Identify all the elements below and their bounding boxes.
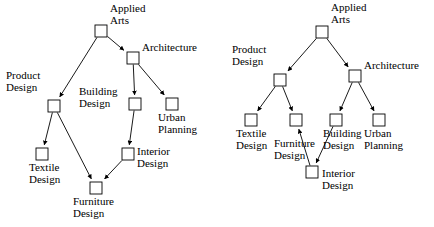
node-box-building_design[interactable] <box>129 98 141 110</box>
node-label-line2-furniture_design: Design <box>73 208 114 220</box>
node-label-line1-furniture_design: Furniture <box>274 138 315 150</box>
node-label-textile_design: TextileDesign <box>236 128 267 151</box>
node-box-urban_planning[interactable] <box>373 114 385 126</box>
edge-interior_design-to-furniture_design <box>105 161 122 179</box>
node-label-product_design: ProductDesign <box>6 70 40 93</box>
diagram-canvas <box>0 0 434 227</box>
node-box-building_design[interactable] <box>330 114 342 126</box>
node-box-applied_arts[interactable] <box>95 25 107 37</box>
node-label-urban_planning: UrbanPlanning <box>364 128 403 151</box>
node-label-line1-interior_design: Interior <box>137 146 170 158</box>
node-label-line1-product_design: Product <box>6 70 40 82</box>
edge-applied_arts-to-product_design <box>288 39 316 71</box>
edge-applied_arts-to-architecture <box>327 39 348 67</box>
node-box-product_design[interactable] <box>48 100 60 112</box>
node-label-line2-urban_planning: Planning <box>364 140 403 152</box>
node-label-line1-building_design: Building <box>79 86 118 98</box>
node-label-line2-building_design: Design <box>79 98 118 110</box>
edge-architecture-to-urban_planning <box>359 83 374 111</box>
node-label-urban_planning: UrbanPlanning <box>158 112 197 135</box>
node-label-architecture: Architecture <box>364 60 419 72</box>
edge-product_design-to-furniture_design <box>57 113 91 179</box>
node-label-line2-applied_arts: Arts <box>110 15 145 27</box>
edge-product_design-to-furniture_design <box>283 87 293 111</box>
node-label-architecture: Architecture <box>142 42 197 54</box>
node-label-interior_design: InteriorDesign <box>322 168 355 191</box>
node-label-line2-textile_design: Design <box>236 140 267 152</box>
edge-building_design-to-interior_design <box>129 111 134 145</box>
node-label-line1-architecture: Architecture <box>142 42 197 54</box>
node-label-line1-architecture: Architecture <box>364 60 419 72</box>
node-label-product_design: ProductDesign <box>232 44 266 67</box>
node-label-line2-textile_design: Design <box>29 174 60 186</box>
node-label-line1-applied_arts: Applied <box>110 3 145 15</box>
node-box-textile_design[interactable] <box>36 148 48 160</box>
node-box-product_design[interactable] <box>274 74 286 86</box>
node-label-line2-applied_arts: Arts <box>331 14 366 26</box>
node-box-architecture[interactable] <box>349 70 361 82</box>
node-label-furniture_design: FurnitureDesign <box>274 138 315 161</box>
node-label-line1-urban_planning: Urban <box>158 112 197 124</box>
node-box-furniture_design[interactable] <box>90 182 102 194</box>
node-label-building_design: BuildingDesign <box>323 128 362 151</box>
node-label-textile_design: TextileDesign <box>29 162 60 185</box>
node-label-line2-product_design: Design <box>232 56 266 68</box>
node-label-line2-interior_design: Design <box>322 180 355 192</box>
node-label-line2-furniture_design: Design <box>274 150 315 162</box>
node-label-line2-urban_planning: Planning <box>158 124 197 136</box>
edge-product_design-to-textile_design <box>258 87 276 111</box>
node-label-line1-textile_design: Textile <box>29 162 60 174</box>
node-label-line2-building_design: Design <box>323 140 362 152</box>
node-label-line1-applied_arts: Applied <box>331 2 366 14</box>
node-box-architecture[interactable] <box>127 52 139 64</box>
edge-architecture-to-urban_planning <box>139 65 165 95</box>
node-label-building_design: BuildingDesign <box>79 86 118 109</box>
node-label-line1-urban_planning: Urban <box>364 128 403 140</box>
edge-product_design-to-textile_design <box>44 113 52 145</box>
node-box-textile_design[interactable] <box>245 114 257 126</box>
node-label-interior_design: InteriorDesign <box>137 146 170 169</box>
node-label-applied_arts: AppliedArts <box>110 3 145 26</box>
node-label-line1-building_design: Building <box>323 128 362 140</box>
node-label-applied_arts: AppliedArts <box>331 2 366 25</box>
edge-applied_arts-to-architecture <box>108 36 124 50</box>
node-label-line1-product_design: Product <box>232 44 266 56</box>
node-label-furniture_design: FurnitureDesign <box>73 196 114 219</box>
node-label-line1-interior_design: Interior <box>322 168 355 180</box>
edge-architecture-to-building_design <box>133 65 134 95</box>
node-label-line2-interior_design: Design <box>137 158 170 170</box>
node-label-line2-product_design: Design <box>6 82 40 94</box>
edge-architecture-to-building_design <box>340 83 352 111</box>
node-box-interior_design[interactable] <box>306 166 318 178</box>
node-label-line1-textile_design: Textile <box>236 128 267 140</box>
node-label-line1-furniture_design: Furniture <box>73 196 114 208</box>
node-box-furniture_design[interactable] <box>290 114 302 126</box>
node-box-applied_arts[interactable] <box>316 26 328 38</box>
node-box-interior_design[interactable] <box>122 148 134 160</box>
node-box-urban_planning[interactable] <box>166 98 178 110</box>
